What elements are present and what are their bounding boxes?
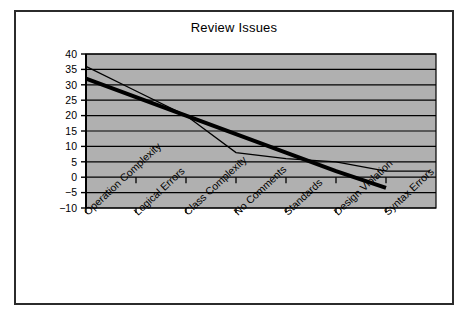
y-tick-label: 30 — [65, 79, 77, 91]
chart-frame: Review Issues 4035302520151050−5−10 Oper… — [14, 10, 454, 305]
y-tick-labels: 4035302520151050−5−10 — [59, 48, 77, 214]
y-tick-label: −10 — [59, 202, 77, 214]
y-tick-label: 35 — [65, 63, 77, 75]
y-tick-label: 25 — [65, 94, 77, 106]
y-tick-label: 20 — [65, 109, 77, 121]
y-tick-label: 40 — [65, 48, 77, 60]
y-tick-label: 10 — [65, 140, 77, 152]
y-tick-label: 15 — [65, 125, 77, 137]
y-tick-label: 0 — [71, 171, 77, 183]
chart-plot-area: 4035302520151050−5−10 Operation Complexi… — [16, 12, 452, 303]
y-tick-label: −5 — [65, 186, 77, 198]
y-tick-label: 5 — [71, 156, 77, 168]
y-axis — [81, 54, 86, 208]
